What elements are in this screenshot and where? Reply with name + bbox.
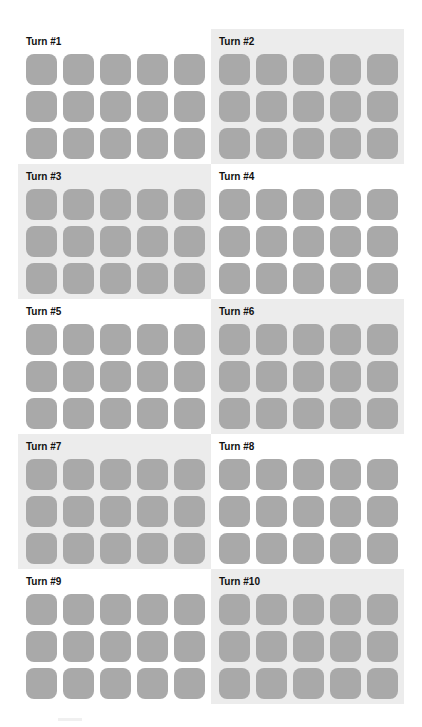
- card-tile[interactable]: [256, 594, 287, 625]
- card-tile[interactable]: [330, 496, 361, 527]
- card-tile[interactable]: [26, 459, 57, 490]
- card-tile[interactable]: [26, 263, 57, 294]
- card-tile[interactable]: [174, 226, 205, 257]
- card-tile[interactable]: [219, 631, 250, 662]
- card-tile[interactable]: [26, 668, 57, 699]
- card-tile[interactable]: [293, 496, 324, 527]
- card-tile[interactable]: [330, 361, 361, 392]
- card-tile[interactable]: [100, 226, 131, 257]
- card-tile[interactable]: [330, 189, 361, 220]
- card-tile[interactable]: [174, 54, 205, 85]
- card-tile[interactable]: [174, 459, 205, 490]
- card-tile[interactable]: [63, 263, 94, 294]
- card-tile[interactable]: [293, 54, 324, 85]
- card-tile[interactable]: [256, 361, 287, 392]
- card-tile[interactable]: [137, 398, 168, 429]
- card-tile[interactable]: [174, 189, 205, 220]
- card-tile[interactable]: [100, 496, 131, 527]
- card-tile[interactable]: [137, 324, 168, 355]
- card-tile[interactable]: [330, 398, 361, 429]
- card-tile[interactable]: [367, 594, 398, 625]
- card-tile[interactable]: [26, 533, 57, 564]
- card-tile[interactable]: [330, 226, 361, 257]
- card-tile[interactable]: [293, 594, 324, 625]
- card-tile[interactable]: [293, 128, 324, 159]
- card-tile[interactable]: [219, 533, 250, 564]
- card-tile[interactable]: [330, 631, 361, 662]
- card-tile[interactable]: [256, 631, 287, 662]
- card-tile[interactable]: [100, 668, 131, 699]
- card-tile[interactable]: [293, 189, 324, 220]
- card-tile[interactable]: [293, 263, 324, 294]
- card-tile[interactable]: [330, 54, 361, 85]
- card-tile[interactable]: [256, 226, 287, 257]
- card-tile[interactable]: [26, 594, 57, 625]
- card-tile[interactable]: [174, 398, 205, 429]
- card-tile[interactable]: [219, 263, 250, 294]
- card-tile[interactable]: [293, 324, 324, 355]
- card-tile[interactable]: [100, 533, 131, 564]
- card-tile[interactable]: [219, 668, 250, 699]
- card-tile[interactable]: [330, 324, 361, 355]
- card-tile[interactable]: [367, 189, 398, 220]
- card-tile[interactable]: [367, 459, 398, 490]
- card-tile[interactable]: [293, 226, 324, 257]
- card-tile[interactable]: [219, 324, 250, 355]
- card-tile[interactable]: [63, 631, 94, 662]
- card-tile[interactable]: [100, 263, 131, 294]
- card-tile[interactable]: [26, 226, 57, 257]
- card-tile[interactable]: [330, 263, 361, 294]
- card-tile[interactable]: [63, 128, 94, 159]
- card-tile[interactable]: [137, 263, 168, 294]
- card-tile[interactable]: [100, 128, 131, 159]
- card-tile[interactable]: [63, 226, 94, 257]
- card-tile[interactable]: [293, 459, 324, 490]
- card-tile[interactable]: [174, 361, 205, 392]
- card-tile[interactable]: [256, 324, 287, 355]
- card-tile[interactable]: [63, 496, 94, 527]
- card-tile[interactable]: [174, 91, 205, 122]
- card-tile[interactable]: [137, 459, 168, 490]
- card-tile[interactable]: [293, 668, 324, 699]
- card-tile[interactable]: [256, 668, 287, 699]
- card-tile[interactable]: [100, 398, 131, 429]
- card-tile[interactable]: [367, 91, 398, 122]
- card-tile[interactable]: [367, 361, 398, 392]
- card-tile[interactable]: [63, 324, 94, 355]
- card-tile[interactable]: [63, 533, 94, 564]
- card-tile[interactable]: [219, 91, 250, 122]
- card-tile[interactable]: [367, 668, 398, 699]
- card-tile[interactable]: [367, 533, 398, 564]
- card-tile[interactable]: [174, 631, 205, 662]
- card-tile[interactable]: [26, 361, 57, 392]
- card-tile[interactable]: [26, 631, 57, 662]
- card-tile[interactable]: [367, 324, 398, 355]
- card-tile[interactable]: [174, 128, 205, 159]
- card-tile[interactable]: [330, 533, 361, 564]
- card-tile[interactable]: [256, 398, 287, 429]
- card-tile[interactable]: [63, 398, 94, 429]
- card-tile[interactable]: [174, 496, 205, 527]
- card-tile[interactable]: [293, 631, 324, 662]
- card-tile[interactable]: [367, 263, 398, 294]
- card-tile[interactable]: [137, 54, 168, 85]
- card-tile[interactable]: [293, 91, 324, 122]
- card-tile[interactable]: [367, 398, 398, 429]
- card-tile[interactable]: [330, 459, 361, 490]
- card-tile[interactable]: [367, 496, 398, 527]
- card-tile[interactable]: [63, 361, 94, 392]
- card-tile[interactable]: [63, 594, 94, 625]
- card-tile[interactable]: [63, 189, 94, 220]
- card-tile[interactable]: [256, 263, 287, 294]
- card-tile[interactable]: [137, 594, 168, 625]
- card-tile[interactable]: [293, 361, 324, 392]
- card-tile[interactable]: [137, 496, 168, 527]
- card-tile[interactable]: [330, 668, 361, 699]
- card-tile[interactable]: [26, 398, 57, 429]
- card-tile[interactable]: [330, 91, 361, 122]
- card-tile[interactable]: [63, 91, 94, 122]
- card-tile[interactable]: [256, 128, 287, 159]
- card-tile[interactable]: [174, 668, 205, 699]
- card-tile[interactable]: [137, 668, 168, 699]
- card-tile[interactable]: [174, 263, 205, 294]
